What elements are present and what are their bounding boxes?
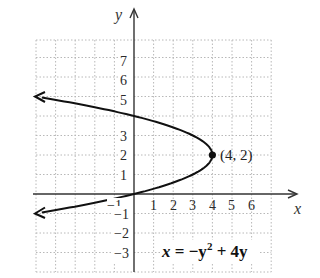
y-tick-labels: 7 6 5 3 2 1 −1 −2 −3: [112, 50, 132, 262]
vertex-point: [209, 151, 216, 158]
y-tick: −3: [114, 246, 129, 261]
x-tick: 2: [170, 198, 177, 213]
vertex-label: (4, 2): [220, 147, 253, 164]
y-tick: 1: [120, 168, 127, 183]
y-tick: −2: [114, 226, 129, 241]
y-tick: 7: [120, 54, 127, 69]
x-tick: 4: [209, 198, 216, 213]
x-tick: 3: [189, 198, 196, 213]
y-axis-label: y: [113, 6, 123, 24]
x-tick: 1: [150, 198, 157, 213]
x-axis-label: x: [293, 200, 301, 217]
y-tick: −1: [114, 207, 129, 222]
x-tick: 5: [228, 198, 235, 213]
y-tick: 5: [120, 93, 127, 108]
graph-canvas: (4, 2) y x −1 1 2 3 4 5 6 7 6 5 3 2 1 −1…: [0, 0, 320, 278]
y-tick: 2: [120, 148, 127, 163]
y-tick: 3: [120, 129, 127, 144]
x-tick: 6: [248, 198, 255, 213]
equation-label: x = −y2 + 4y: [161, 240, 248, 261]
y-tick: 6: [120, 73, 127, 88]
